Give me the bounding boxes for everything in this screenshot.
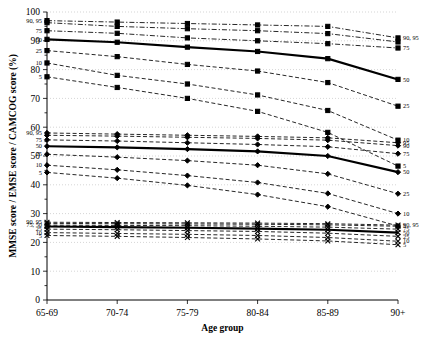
y-axis-title: MMSE score / EMSE score / CAMCOG score (… — [8, 54, 19, 258]
percentile-label-left-EMSE-p5: 5 — [39, 169, 42, 176]
percentile-label-right-MMSE-p75: 75 — [403, 44, 409, 51]
series-line-MMSE-p75 — [47, 31, 398, 48]
data-point-EMSE — [115, 176, 120, 181]
data-point-EMSE — [255, 180, 260, 185]
data-point-EMSE — [115, 155, 120, 160]
data-point-EMSE — [115, 145, 120, 150]
y-tick-label: 70 — [31, 94, 41, 104]
x-tick-label: 90+ — [391, 308, 406, 318]
x-tick-label: 80-84 — [247, 308, 269, 318]
data-point-MMSE — [326, 42, 330, 46]
y-tick-label: 0 — [35, 295, 40, 305]
series-line-MMSE-p50 — [47, 39, 398, 79]
data-point-MMSE — [256, 39, 260, 43]
percentile-label-left-EMSE-p25: 25 — [36, 150, 42, 157]
data-point-EMSE — [255, 192, 260, 197]
data-point-MMSE — [326, 108, 330, 112]
data-point-MMSE — [115, 20, 119, 24]
percentile-label-left-MMSE-p75: 75 — [36, 27, 42, 34]
percentile-label-left-EMSE-p10: 10 — [36, 161, 42, 168]
data-point-EMSE — [185, 158, 190, 163]
percentile-label-left-MMSE-p5: 5 — [39, 73, 42, 80]
data-point-EMSE — [44, 163, 49, 168]
data-point-MMSE — [185, 82, 189, 86]
data-point-MMSE — [396, 164, 400, 168]
data-point-MMSE — [115, 40, 119, 44]
data-point-MMSE — [115, 55, 119, 59]
data-point-EMSE — [185, 173, 190, 178]
data-point-MMSE — [45, 75, 49, 79]
data-point-EMSE — [325, 191, 330, 196]
data-point-EMSE — [255, 149, 260, 154]
data-point-EMSE — [395, 211, 400, 216]
data-point-EMSE — [325, 144, 330, 149]
data-point-MMSE — [396, 104, 400, 108]
series-line-MMSE-p5 — [47, 77, 398, 166]
x-tick-label: 70-74 — [106, 308, 128, 318]
data-point-MMSE — [45, 48, 49, 52]
percentile-label-left-MMSE-p50: 50 — [36, 36, 42, 43]
percentile-label-right-CAMCOG-p5: 5 — [403, 241, 406, 248]
data-point-EMSE — [185, 146, 190, 151]
series-line-MMSE-p25 — [47, 51, 398, 107]
data-point-EMSE — [395, 151, 400, 156]
data-point-EMSE — [325, 204, 330, 209]
data-point-EMSE — [395, 170, 400, 175]
data-point-EMSE — [44, 144, 49, 149]
percentile-label-right-EMSE-p10: 10 — [403, 210, 409, 217]
series-line-EMSE-p5 — [47, 172, 398, 226]
data-point-EMSE — [115, 138, 120, 143]
data-point-MMSE — [185, 62, 189, 66]
percentile-label-left-MMSE-p95: 90, 95 — [26, 17, 42, 24]
data-point-MMSE — [256, 69, 260, 73]
data-point-MMSE — [326, 32, 330, 36]
data-point-MMSE — [45, 21, 49, 25]
data-point-EMSE — [395, 191, 400, 196]
data-point-MMSE — [326, 130, 330, 134]
data-point-MMSE — [326, 24, 330, 28]
y-tick-label: 20 — [31, 238, 41, 248]
data-point-MMSE — [185, 45, 189, 49]
data-point-MMSE — [326, 80, 330, 84]
data-point-EMSE — [185, 140, 190, 145]
x-tick-label: 85-89 — [317, 308, 339, 318]
data-point-MMSE — [256, 93, 260, 97]
series-line-MMSE-p95 — [47, 21, 398, 38]
data-point-MMSE — [115, 73, 119, 77]
x-tick-label: 65-69 — [36, 308, 58, 318]
data-point-MMSE — [115, 85, 119, 89]
data-point-MMSE — [256, 49, 260, 53]
percentile-label-right-EMSE-p75: 75 — [403, 150, 409, 157]
data-point-MMSE — [45, 61, 49, 65]
data-point-EMSE — [255, 142, 260, 147]
series-line-MMSE-p10 — [47, 63, 398, 140]
percentile-label-right-EMSE-p50: 50 — [403, 168, 409, 175]
data-point-EMSE — [325, 153, 330, 158]
data-point-MMSE — [326, 57, 330, 61]
percentile-line-chart: 010203040506070809010065-6970-7475-7980-… — [0, 0, 438, 346]
data-point-MMSE — [396, 77, 400, 81]
percentile-label-right-EMSE-p25: 25 — [403, 190, 409, 197]
percentile-label-left-EMSE-p50: 50 — [36, 142, 42, 149]
data-point-MMSE — [115, 24, 119, 28]
data-point-EMSE — [255, 163, 260, 168]
data-point-MMSE — [45, 37, 49, 41]
data-point-MMSE — [256, 29, 260, 33]
percentile-label-right-MMSE-p95: 90, 95 — [403, 34, 419, 41]
data-point-MMSE — [256, 109, 260, 113]
data-point-MMSE — [185, 96, 189, 100]
y-tick-label: 10 — [31, 267, 41, 277]
percentile-label-left-MMSE-p25: 25 — [36, 47, 42, 54]
data-point-MMSE — [396, 46, 400, 50]
series-line-CAMCOG-p5 — [47, 235, 398, 244]
series-line-EMSE-p10 — [47, 165, 398, 213]
percentile-label-right-EMSE-p90: 90 — [403, 142, 409, 149]
data-point-MMSE — [185, 27, 189, 31]
x-axis-title: Age group — [201, 323, 243, 333]
percentile-label-left-MMSE-p10: 10 — [36, 59, 42, 66]
percentile-label-left-CAMCOG-p5: 5 — [39, 232, 42, 239]
y-tick-label: 40 — [31, 180, 41, 190]
percentile-label-right-MMSE-p50: 50 — [403, 76, 409, 83]
data-point-MMSE — [256, 23, 260, 27]
series-line-EMSE-p50 — [47, 146, 398, 172]
